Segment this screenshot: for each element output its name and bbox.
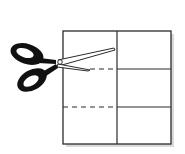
scissors-pivot [58, 60, 63, 65]
scissors-upper-handle [8, 39, 56, 69]
diagram-canvas [0, 0, 185, 154]
diagram: paper sheet scissors dashed cut line [0, 0, 185, 154]
scissors-lower-handle [13, 63, 58, 96]
